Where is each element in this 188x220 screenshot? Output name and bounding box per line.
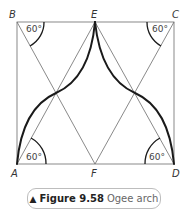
angle-label-A: 60°	[26, 152, 42, 162]
triangle-marker-icon: ▲	[30, 194, 37, 204]
angle-arcs	[30, 22, 161, 164]
ogee-arch-diagram: B E C A F D 60° 60° 60° 60°	[0, 0, 188, 220]
label-A: A	[10, 168, 18, 179]
figure-number: Figure 9.58	[39, 193, 103, 204]
angle-label-B: 60°	[26, 24, 42, 34]
label-E: E	[91, 9, 98, 20]
label-C: C	[172, 9, 179, 20]
angle-label-D: 60°	[149, 152, 165, 162]
angle-label-C: 60°	[152, 24, 168, 34]
arch-curves	[17, 22, 174, 164]
label-D: D	[172, 168, 180, 179]
label-B: B	[9, 9, 16, 20]
figure-caption: ▲ Figure 9.58 Ogee arch	[27, 188, 161, 209]
figure-title: Ogee arch	[107, 193, 159, 204]
construction-lines	[17, 22, 174, 164]
outer-rectangle	[17, 22, 174, 164]
label-F: F	[91, 168, 97, 179]
